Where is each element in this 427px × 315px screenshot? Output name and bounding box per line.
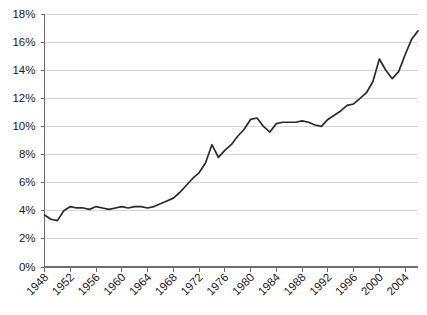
y-axis-tick-label: 10% xyxy=(12,120,35,132)
y-axis-tick-label: 12% xyxy=(12,92,35,104)
y-axis-tick-label: 2% xyxy=(19,232,36,244)
chart-background xyxy=(0,0,427,315)
y-axis-tick-label: 14% xyxy=(12,64,35,76)
y-axis-tick-label: 6% xyxy=(19,176,36,188)
y-axis-tick-label: 0% xyxy=(19,261,36,273)
chart-canvas: 18%16%14%12%10%8%6%4%2%0% 19481952195619… xyxy=(0,0,427,315)
line-chart: 18%16%14%12%10%8%6%4%2%0% 19481952195619… xyxy=(0,0,427,315)
y-axis-tick-label: 18% xyxy=(12,8,35,20)
y-axis-tick-label: 4% xyxy=(19,204,36,216)
y-axis-tick-label: 8% xyxy=(19,148,36,160)
y-axis-tick-label: 16% xyxy=(12,36,35,48)
